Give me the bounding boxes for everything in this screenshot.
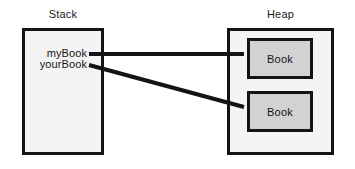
heap-region-label: Heap: [227, 8, 334, 20]
heap-object-book-1-label: Book: [267, 53, 293, 65]
stack-region-label: Stack: [22, 8, 104, 20]
heap-object-book-2: Book: [247, 91, 313, 132]
stack-variable-yourbook: yourBook: [19, 58, 87, 70]
heap-object-book-1: Book: [247, 38, 313, 79]
heap-object-book-2-label: Book: [267, 106, 293, 118]
reference-line-yourbook-to-book-2: [89, 65, 244, 107]
stack-heap-diagram: Stack Heap myBook yourBook Book Book: [0, 0, 355, 169]
